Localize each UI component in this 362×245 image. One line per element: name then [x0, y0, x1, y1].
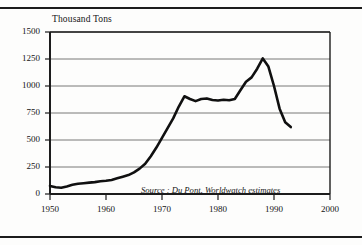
chart-figure: Thousand Tons — [0, 0, 362, 245]
x-tick-label: 1990 — [254, 205, 294, 214]
y-tick-label: 500 — [6, 135, 40, 144]
x-tick-label: 2000 — [310, 205, 350, 214]
data-series-line — [50, 58, 291, 187]
y-tick-label: 1500 — [6, 27, 40, 36]
x-tick-label: 1960 — [86, 205, 126, 214]
x-tick-label: 1970 — [142, 205, 182, 214]
y-tick-label: 1250 — [6, 54, 40, 63]
y-tick-label: 750 — [6, 108, 40, 117]
source-attribution: Source : Du Pont, Worldwatch estimates — [141, 185, 280, 195]
y-tick-label: 1000 — [6, 81, 40, 90]
y-tick-label: 250 — [6, 162, 40, 171]
y-tick-label: 0 — [6, 189, 40, 198]
x-tick-label: 1980 — [198, 205, 238, 214]
x-tick-label: 1950 — [30, 205, 70, 214]
